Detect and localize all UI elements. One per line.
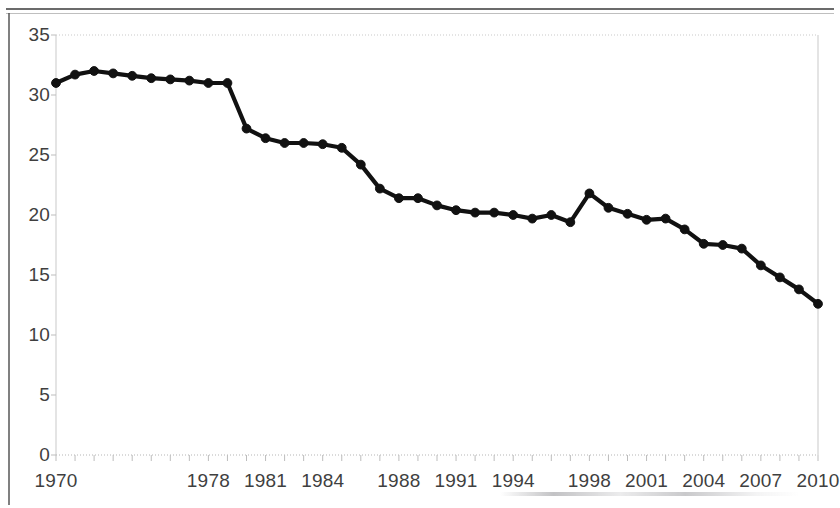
- data-point-1995: [528, 214, 537, 223]
- data-point-1992: [471, 208, 480, 217]
- data-point-1981: [261, 134, 270, 143]
- data-point-2004: [699, 239, 708, 248]
- chart-screenshot: 05101520253035 1970197819811984198819911…: [0, 0, 840, 508]
- data-point-2001: [642, 215, 651, 224]
- data-point-1986: [356, 160, 365, 169]
- data-point-2000: [623, 209, 632, 218]
- data-point-1989: [414, 194, 423, 203]
- data-point-2002: [661, 214, 670, 223]
- data-point-1973: [109, 69, 118, 78]
- data-point-1998: [585, 189, 594, 198]
- data-point-1970: [52, 79, 61, 88]
- data-point-1978: [204, 79, 213, 88]
- data-point-1985: [337, 143, 346, 152]
- data-point-1997: [566, 218, 575, 227]
- data-point-1974: [128, 71, 137, 80]
- data-point-2008: [776, 273, 785, 282]
- data-point-1999: [604, 203, 613, 212]
- data-point-2009: [795, 285, 804, 294]
- data-point-1977: [185, 76, 194, 85]
- data-point-1983: [299, 139, 308, 148]
- data-point-1993: [490, 208, 499, 217]
- data-point-2005: [718, 241, 727, 250]
- data-point-2003: [680, 225, 689, 234]
- data-line-series-1: [56, 71, 818, 304]
- data-point-1971: [71, 70, 80, 79]
- data-point-1976: [166, 75, 175, 84]
- data-point-1994: [509, 211, 518, 220]
- data-point-2006: [737, 244, 746, 253]
- data-point-2010: [814, 299, 823, 308]
- data-point-1984: [318, 140, 327, 149]
- data-point-1991: [452, 206, 461, 215]
- data-point-1987: [375, 184, 384, 193]
- data-point-2007: [756, 261, 765, 270]
- data-point-1980: [242, 124, 251, 133]
- data-point-1972: [90, 67, 99, 76]
- data-point-1990: [433, 201, 442, 210]
- data-point-1975: [147, 74, 156, 83]
- plot-area: [0, 0, 840, 508]
- data-point-1996: [547, 211, 556, 220]
- data-point-1979: [223, 79, 232, 88]
- line-chart: 05101520253035 1970197819811984198819911…: [0, 0, 840, 508]
- data-point-1988: [395, 194, 404, 203]
- data-point-1982: [280, 139, 289, 148]
